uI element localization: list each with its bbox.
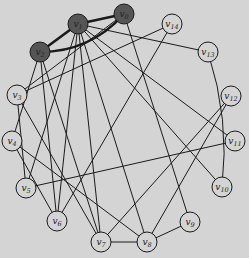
edge-v0-v9 [124, 14, 190, 222]
node-v4: v4 [2, 131, 22, 151]
node-v8: v8 [137, 232, 157, 252]
node-v14: v14 [162, 14, 182, 34]
node-v0: v0 [114, 4, 134, 24]
node-v10: v10 [212, 177, 232, 197]
graph-canvas: v0v1v2v3v4v5v6v7v8v9v10v11v12v13v14 [0, 0, 249, 258]
node-v13: v13 [198, 42, 218, 62]
node-v11: v11 [225, 131, 245, 151]
node-v7: v7 [91, 232, 111, 252]
node-v3: v3 [7, 85, 27, 105]
node-v5: v5 [16, 178, 36, 198]
edge-v1-v11 [78, 24, 235, 141]
node-v2: v2 [30, 42, 50, 62]
node-v6: v6 [47, 211, 67, 231]
edge-v1-v8 [78, 24, 147, 242]
edge-v1-v6 [57, 24, 78, 221]
edge-v7-v12 [101, 96, 231, 242]
graph-diagram: v0v1v2v3v4v5v6v7v8v9v10v11v12v13v14 [0, 0, 249, 258]
edge-v14-v6 [57, 24, 172, 221]
edge-v5-v11 [26, 141, 235, 188]
node-v1: v1 [68, 14, 88, 34]
edge-v1-v7 [78, 24, 101, 242]
node-v9: v9 [180, 212, 200, 232]
node-v12: v12 [221, 86, 241, 106]
